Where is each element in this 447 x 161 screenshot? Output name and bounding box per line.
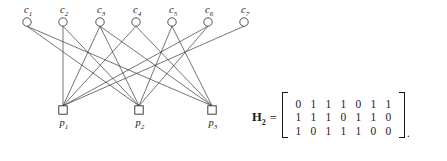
check-node-c5 xyxy=(168,18,176,26)
equals-sign: = xyxy=(270,111,277,126)
check-node-label-c5: c5 xyxy=(169,4,178,18)
matrix-cell: 0 xyxy=(381,125,396,139)
matrix-cell: 0 xyxy=(291,98,306,112)
edges-layer xyxy=(27,26,244,106)
matrix-cell: 1 xyxy=(321,125,336,139)
graph-edge xyxy=(136,26,212,106)
matrix-cell: 1 xyxy=(306,98,321,112)
matrix-cell: 1 xyxy=(351,111,366,125)
matrix-cell: 1 xyxy=(351,125,366,139)
parity-check-matrix: H2 = 011101111101101011100 . xyxy=(252,92,410,144)
parity-node-p3 xyxy=(208,106,216,114)
matrix-name-label: H2 xyxy=(252,110,266,127)
graph-edge xyxy=(63,26,244,106)
matrix-cell: 1 xyxy=(366,111,381,125)
matrix-cell: 1 xyxy=(291,125,306,139)
check-node-c4 xyxy=(132,18,140,26)
graph-edge xyxy=(100,26,139,106)
matrix-cell: 1 xyxy=(306,111,321,125)
matrix-cell: 1 xyxy=(321,98,336,112)
check-node-label-c7: c7 xyxy=(241,4,250,18)
graph-edge xyxy=(100,26,212,106)
matrix-cell: 0 xyxy=(366,125,381,139)
check-node-label-c6: c6 xyxy=(205,4,214,18)
matrix-cell: 0 xyxy=(306,125,321,139)
parity-nodes-layer xyxy=(59,106,216,114)
parity-node-label-p1: p1 xyxy=(59,117,69,131)
check-node-c6 xyxy=(204,18,212,26)
check-node-c1 xyxy=(23,18,31,26)
tanner-graph-diagram: c1c2c3c4c5c6c7p1p2p3 xyxy=(0,0,270,161)
graph-edge xyxy=(172,26,212,106)
matrix-trailing-period: . xyxy=(407,126,410,141)
matrix-cell: 1 xyxy=(321,111,336,125)
graph-edge xyxy=(27,26,139,106)
matrix-cell: 0 xyxy=(336,111,351,125)
matrix-cell: 1 xyxy=(291,111,306,125)
matrix-row: 1110110 xyxy=(291,111,396,125)
check-nodes-layer xyxy=(23,18,248,26)
graph-edge xyxy=(139,26,208,106)
check-node-c2 xyxy=(59,18,67,26)
matrix-name-subscript: 2 xyxy=(262,117,266,126)
matrix-right-bracket xyxy=(399,92,405,138)
check-node-c7 xyxy=(240,18,248,26)
matrix-row: 0111011 xyxy=(291,98,396,112)
check-node-label-c1: c1 xyxy=(24,4,32,18)
tanner-graph-figure: c1c2c3c4c5c6c7p1p2p3 H2 = 01110111110110… xyxy=(0,0,447,161)
check-node-label-c2: c2 xyxy=(60,4,69,18)
matrix-cell: 1 xyxy=(336,98,351,112)
graph-edge xyxy=(63,26,100,106)
graph-edge xyxy=(63,26,208,106)
parity-node-p1 xyxy=(59,106,67,114)
matrix-cell: 1 xyxy=(366,98,381,112)
check-node-c3 xyxy=(96,18,104,26)
matrix-cell: 1 xyxy=(381,98,396,112)
matrix-grid: 011101111101101011100 xyxy=(288,95,399,141)
check-node-label-c4: c4 xyxy=(133,4,142,18)
parity-node-label-p3: p3 xyxy=(208,117,218,131)
parity-node-p2 xyxy=(135,106,143,114)
matrix-row: 1011100 xyxy=(291,125,396,139)
matrix-cell: 0 xyxy=(381,111,396,125)
check-node-label-c3: c3 xyxy=(97,4,106,18)
matrix-cell: 1 xyxy=(336,125,351,139)
graph-edge xyxy=(139,26,172,106)
matrix-cell: 0 xyxy=(351,98,366,112)
parity-node-label-p2: p2 xyxy=(135,117,145,131)
